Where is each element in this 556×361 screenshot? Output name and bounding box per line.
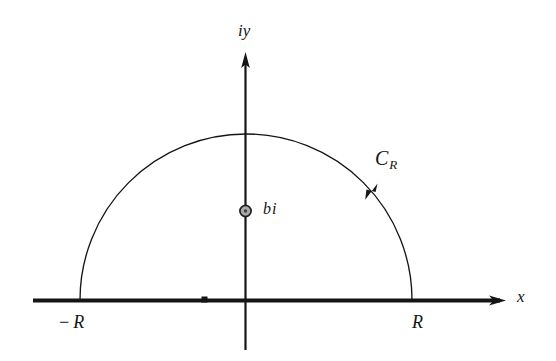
left-endpoint-label: −R — [58, 313, 84, 331]
real-axis-dot — [202, 297, 208, 303]
contour-label-base: C — [375, 147, 388, 169]
minus-sign-glyph: − — [58, 312, 70, 332]
right-endpoint-label: R — [412, 313, 423, 331]
complex-contour-figure: iy x bi −R R CR — [0, 0, 556, 361]
y-axis-label: iy — [238, 22, 250, 39]
pole-label-bi: bi — [263, 201, 277, 217]
x-axis-label: x — [517, 288, 525, 305]
contour-diagram-svg — [0, 0, 556, 361]
contour-label-subscript: R — [389, 157, 397, 172]
pole-marker-center — [244, 209, 247, 212]
left-endpoint-label-text: R — [73, 312, 84, 332]
contour-label: CR — [375, 148, 397, 171]
